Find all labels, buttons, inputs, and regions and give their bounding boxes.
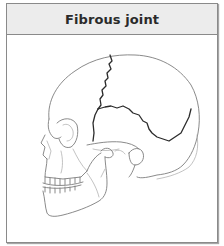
temporal-suture bbox=[93, 109, 98, 141]
maxilla bbox=[45, 159, 87, 179]
squamosal-suture bbox=[98, 106, 191, 141]
mastoid-process bbox=[129, 149, 144, 166]
zygomatic-arch bbox=[87, 142, 139, 149]
nasal-bone bbox=[41, 135, 47, 159]
frontal-brow bbox=[48, 119, 61, 139]
occipital-outline bbox=[157, 135, 198, 179]
upper-teeth bbox=[43, 177, 83, 186]
card-header: Fibrous joint bbox=[7, 4, 217, 35]
orbit bbox=[57, 119, 78, 148]
diagram-card: Fibrous joint bbox=[6, 3, 218, 243]
card-title: Fibrous joint bbox=[65, 12, 159, 27]
cranium-outline bbox=[49, 55, 200, 178]
coronal-suture bbox=[98, 55, 112, 109]
lower-teeth bbox=[43, 185, 81, 193]
skull-illustration bbox=[7, 35, 217, 242]
